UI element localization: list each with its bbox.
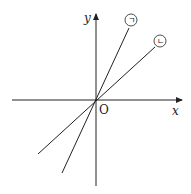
origin-label: O bbox=[99, 103, 109, 117]
x-axis-label: x bbox=[172, 104, 179, 118]
label-nieun: ㄴ bbox=[154, 35, 166, 47]
y-axis-label: y bbox=[83, 11, 91, 25]
svg-text:ㄱ: ㄱ bbox=[128, 16, 135, 25]
svg-text:ㄴ: ㄴ bbox=[157, 37, 164, 46]
coordinate-diagram: y x O ㄱ ㄴ bbox=[0, 0, 191, 194]
label-giyeok: ㄱ bbox=[125, 14, 137, 26]
